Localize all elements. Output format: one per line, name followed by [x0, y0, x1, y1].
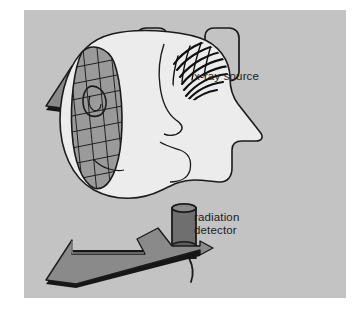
label-radiation-detector-line2: detector — [194, 224, 237, 236]
diagram-panel: x-ray source radiationdetector — [24, 10, 346, 298]
detector-cylinder-top — [172, 204, 196, 212]
radiation-detector-group — [46, 204, 213, 288]
label-radiation-detector-line1: radiation — [194, 211, 239, 223]
detector-cylinder-body — [172, 208, 196, 246]
label-radiation-detector: radiationdetector — [194, 211, 239, 237]
label-xray-source: x-ray source — [194, 70, 259, 83]
grid-band-shape — [71, 47, 122, 189]
figure-root: x-ray source radiationdetector — [0, 0, 361, 309]
radiography-diagram — [24, 10, 346, 298]
